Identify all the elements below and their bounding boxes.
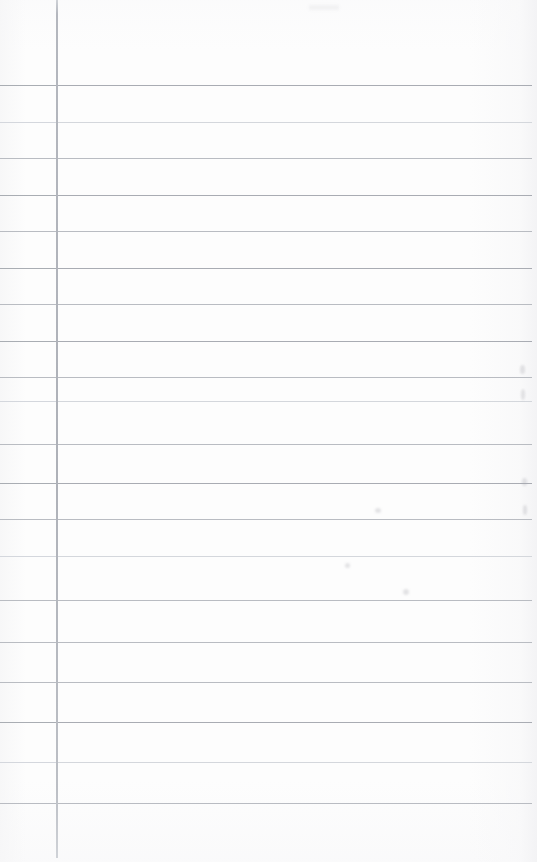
ruled-line — [0, 803, 532, 804]
writing-area — [58, 85, 532, 803]
scan-smudge — [309, 5, 339, 10]
notebook-page — [0, 0, 537, 862]
